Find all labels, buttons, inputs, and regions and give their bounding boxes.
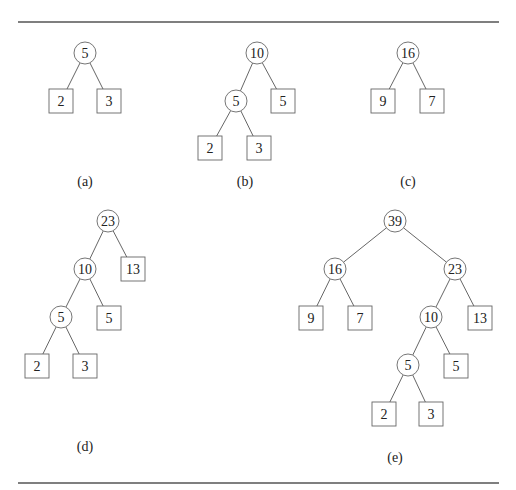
leaf-node: 3: [97, 89, 121, 113]
leaf-node: 9: [371, 89, 395, 113]
leaf-node: 3: [419, 402, 443, 426]
tree-edge: [90, 63, 103, 89]
tree-edge: [436, 279, 450, 307]
tree-edge: [262, 63, 276, 89]
tree-edge: [113, 231, 127, 257]
internal-node: 23: [444, 258, 466, 280]
tree-edge: [66, 327, 79, 354]
leaf-node: 5: [444, 354, 468, 378]
node-label: 5: [82, 46, 89, 61]
tree-edge: [340, 279, 354, 306]
leaf-node: 2: [372, 402, 396, 426]
tree-edge: [241, 111, 253, 136]
leaf-node: 3: [73, 354, 97, 378]
node-label: 3: [428, 407, 435, 422]
tree-edge: [404, 228, 447, 262]
tree-edge: [413, 327, 426, 355]
leaf-node: 2: [49, 89, 73, 113]
node-label: 10: [250, 46, 264, 61]
node-label: 23: [448, 262, 462, 277]
node-label: 13: [473, 311, 487, 326]
leaf-node: 2: [25, 354, 49, 378]
internal-node: 23: [97, 210, 119, 232]
internal-node: 5: [397, 354, 419, 376]
node-label: 3: [106, 94, 113, 109]
tree-b: 105523(b): [198, 42, 295, 190]
tree-a: 523(a): [49, 42, 121, 190]
tree-edge: [43, 327, 56, 354]
internal-node: 10: [246, 42, 268, 64]
node-label: 13: [126, 262, 140, 277]
node-label: 5: [453, 359, 460, 374]
internal-node: 16: [397, 42, 419, 64]
leaf-node: 2: [198, 136, 222, 160]
tree-edge: [217, 111, 231, 136]
tree-edge: [390, 375, 403, 402]
tree-d: 2310135523(d): [25, 210, 145, 455]
node-label: 3: [82, 359, 89, 374]
tree-caption: (a): [77, 174, 93, 190]
node-label: 16: [328, 262, 342, 277]
internal-node: 39: [384, 210, 406, 232]
node-label: 2: [34, 359, 41, 374]
huffman-tree-diagram: 523(a)105523(b)1697(c)2310135523(d)39162…: [0, 0, 516, 490]
tree-edge: [460, 279, 474, 306]
node-label: 10: [424, 310, 438, 325]
tree-edge: [389, 63, 403, 89]
tree-edge: [90, 279, 103, 306]
tree-edge: [436, 327, 450, 354]
node-label: 7: [357, 311, 364, 326]
leaf-node: 5: [97, 306, 121, 330]
leaf-node: 13: [121, 257, 145, 281]
node-label: 2: [381, 407, 388, 422]
node-label: 5: [280, 94, 287, 109]
tree-edge: [317, 279, 330, 306]
internal-node: 5: [74, 42, 96, 64]
internal-node: 5: [50, 306, 72, 328]
tree-edge: [344, 228, 387, 262]
internal-node: 10: [74, 258, 96, 280]
node-label: 7: [429, 94, 436, 109]
node-label: 16: [401, 46, 415, 61]
leaf-node: 5: [271, 89, 295, 113]
leaf-node: 9: [299, 306, 323, 330]
tree-caption: (c): [400, 174, 416, 190]
tree-edge: [240, 63, 252, 91]
node-label: 5: [233, 94, 240, 109]
node-label: 5: [106, 311, 113, 326]
internal-node: 10: [420, 306, 442, 328]
tree-e: 3916239710135523(e): [299, 210, 492, 466]
node-label: 3: [256, 141, 263, 156]
leaf-node: 13: [468, 306, 492, 330]
node-label: 5: [405, 358, 412, 373]
tree-c: 1697(c): [371, 42, 444, 190]
leaf-node: 7: [420, 89, 444, 113]
tree-caption: (e): [387, 450, 403, 466]
leaf-node: 3: [247, 136, 271, 160]
node-label: 9: [308, 311, 315, 326]
leaf-node: 7: [348, 306, 372, 330]
tree-edge: [90, 231, 103, 259]
node-label: 10: [78, 262, 92, 277]
node-label: 5: [58, 310, 65, 325]
tree-caption: (d): [77, 439, 94, 455]
node-label: 23: [101, 214, 115, 229]
tree-edge: [67, 63, 80, 89]
node-label: 2: [58, 94, 65, 109]
internal-node: 5: [225, 90, 247, 112]
tree-edge: [66, 279, 80, 307]
node-label: 2: [207, 141, 214, 156]
internal-node: 16: [324, 258, 346, 280]
tree-caption: (b): [237, 174, 254, 190]
node-label: 39: [388, 214, 402, 229]
tree-edge: [413, 63, 426, 89]
tree-edge: [413, 375, 426, 402]
node-label: 9: [380, 94, 387, 109]
